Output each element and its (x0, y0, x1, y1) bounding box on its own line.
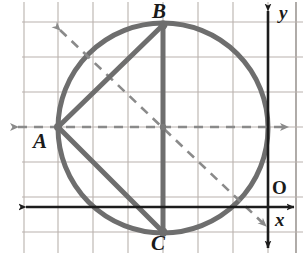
x-axis-label: x (275, 210, 285, 229)
inscribed-triangle (58, 25, 163, 232)
point-label-A: A (33, 131, 47, 152)
center-dot (160, 124, 166, 130)
geometry-figure: A B C O x y (0, 0, 303, 253)
diagram-canvas (0, 0, 303, 253)
point-label-B: B (152, 1, 166, 22)
origin-label: O (272, 178, 287, 197)
point-label-C: C (151, 233, 165, 253)
coordinate-axes (26, 11, 294, 248)
y-axis-label: y (279, 3, 287, 22)
vertex-dot-A (54, 123, 62, 131)
